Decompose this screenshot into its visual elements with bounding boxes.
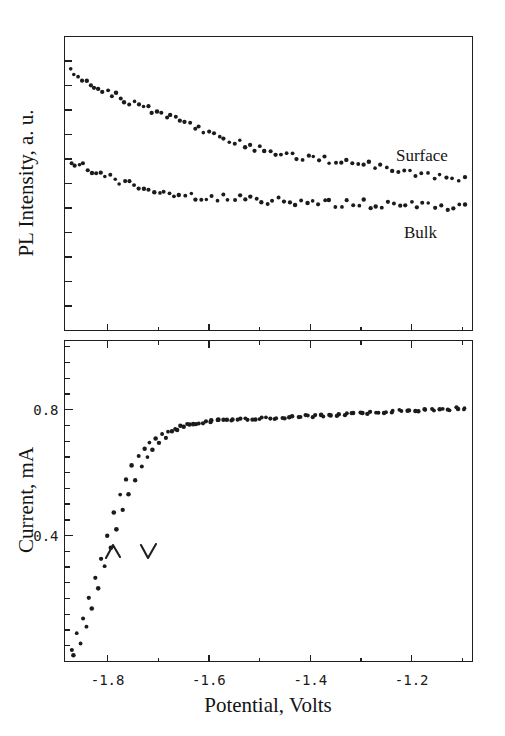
data-point bbox=[259, 200, 263, 204]
data-point bbox=[90, 171, 94, 175]
data-point bbox=[258, 144, 262, 148]
data-point bbox=[463, 202, 467, 206]
data-point bbox=[100, 90, 104, 94]
data-point bbox=[437, 407, 442, 412]
data-point bbox=[103, 564, 107, 568]
data-point bbox=[70, 648, 74, 652]
data-point bbox=[252, 149, 256, 153]
data-point bbox=[454, 405, 458, 409]
data-point bbox=[110, 94, 114, 98]
data-point bbox=[73, 164, 77, 168]
x-tick-label: -1.6 bbox=[192, 672, 226, 688]
data-point bbox=[273, 153, 277, 157]
data-point bbox=[426, 171, 430, 175]
data-point bbox=[365, 412, 369, 416]
data-point bbox=[327, 413, 331, 417]
data-point bbox=[227, 140, 231, 144]
data-point bbox=[250, 418, 254, 422]
data-point bbox=[79, 642, 83, 646]
data-point bbox=[373, 204, 377, 208]
data-point bbox=[78, 163, 82, 167]
data-point bbox=[361, 163, 365, 167]
x-tick-label: -1.8 bbox=[91, 672, 125, 688]
y-tick-label: 0.8 bbox=[33, 402, 58, 418]
data-point bbox=[236, 418, 240, 422]
data-point bbox=[317, 158, 321, 162]
data-point bbox=[132, 183, 136, 187]
data-point bbox=[84, 625, 88, 629]
data-point bbox=[413, 174, 417, 178]
data-point bbox=[451, 206, 455, 210]
data-point bbox=[175, 428, 180, 433]
data-point bbox=[208, 420, 212, 424]
data-point bbox=[403, 203, 407, 207]
top-panel-y-axis-title: PL Intensity, a. u. bbox=[14, 109, 38, 256]
data-point bbox=[398, 204, 402, 208]
data-point bbox=[124, 477, 128, 481]
data-point bbox=[233, 198, 237, 202]
data-point bbox=[81, 161, 85, 165]
data-point bbox=[463, 175, 467, 179]
data-point bbox=[212, 131, 216, 135]
data-point bbox=[111, 510, 116, 515]
data-point bbox=[103, 175, 107, 179]
surface-series-label: Surface bbox=[396, 146, 448, 165]
data-point bbox=[438, 173, 442, 177]
data-point bbox=[335, 414, 339, 418]
data-point bbox=[367, 159, 371, 163]
data-point bbox=[160, 432, 164, 436]
data-point bbox=[291, 151, 295, 155]
data-point bbox=[157, 441, 161, 445]
data-point bbox=[233, 142, 237, 146]
data-point bbox=[288, 200, 292, 204]
forward-scan-arrow-mark bbox=[106, 545, 120, 558]
data-point bbox=[183, 194, 187, 198]
data-point bbox=[323, 198, 327, 202]
data-point bbox=[334, 161, 338, 165]
data-point bbox=[86, 168, 90, 172]
data-point bbox=[72, 73, 76, 77]
data-point bbox=[457, 179, 461, 183]
data-point bbox=[450, 176, 454, 180]
data-point bbox=[426, 201, 430, 205]
data-point bbox=[405, 408, 409, 412]
data-point bbox=[333, 205, 337, 209]
data-point bbox=[114, 91, 119, 96]
data-point bbox=[390, 169, 394, 173]
data-point bbox=[402, 168, 406, 172]
data-point bbox=[457, 203, 461, 207]
data-point bbox=[142, 447, 146, 451]
bottom-panel: -1.8-1.6-1.4-1.2 0.40.8 Current, mA Pote… bbox=[14, 341, 473, 718]
data-point bbox=[170, 429, 174, 433]
reverse-scan-points bbox=[71, 405, 466, 657]
data-point bbox=[268, 416, 272, 420]
data-point bbox=[155, 109, 159, 113]
data-point bbox=[439, 203, 443, 207]
data-point bbox=[243, 416, 247, 420]
data-point bbox=[153, 436, 158, 441]
data-point bbox=[266, 202, 270, 206]
data-point bbox=[248, 143, 252, 147]
data-point bbox=[433, 206, 437, 210]
data-point bbox=[158, 191, 162, 195]
data-point bbox=[243, 197, 247, 201]
data-point bbox=[136, 186, 140, 190]
forward-scan-points bbox=[70, 406, 467, 652]
data-point bbox=[345, 198, 349, 202]
data-point bbox=[182, 120, 186, 124]
data-point bbox=[255, 197, 259, 201]
data-point bbox=[137, 454, 141, 458]
data-point bbox=[105, 534, 109, 538]
data-point bbox=[280, 416, 284, 420]
top-panel-x-ticks bbox=[108, 324, 463, 331]
data-point bbox=[205, 198, 209, 202]
data-point bbox=[229, 418, 233, 422]
data-point bbox=[152, 190, 156, 194]
data-point bbox=[114, 527, 119, 532]
data-point bbox=[148, 441, 152, 445]
data-point bbox=[311, 199, 315, 203]
data-point bbox=[386, 200, 390, 204]
data-point bbox=[293, 203, 298, 208]
data-point bbox=[216, 199, 220, 203]
data-point bbox=[270, 199, 274, 203]
